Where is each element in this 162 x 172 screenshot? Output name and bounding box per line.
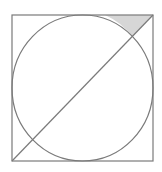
geometry-diagram <box>0 0 162 172</box>
